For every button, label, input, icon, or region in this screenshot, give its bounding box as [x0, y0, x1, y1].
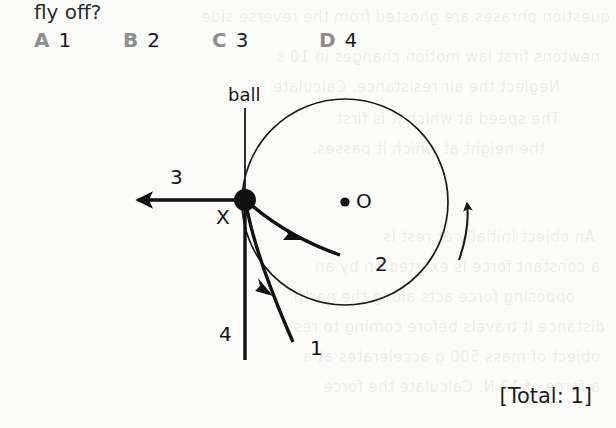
option-c-value: 3: [236, 28, 249, 52]
centre-label: O: [356, 189, 372, 213]
exam-question-page: question phrases are ghosted from the re…: [0, 0, 616, 428]
physics-diagram: ball O X 1 2 3 4: [0, 60, 616, 370]
ghost-text-line: question phrases are ghosted from the re…: [201, 8, 610, 26]
option-b[interactable]: B2: [123, 26, 160, 54]
option-b-letter: B: [123, 28, 138, 52]
centre-point-dot: [340, 197, 349, 206]
direction-label-4: 4: [219, 322, 232, 346]
diagram-svg: [0, 60, 616, 370]
option-a-letter: A: [34, 28, 49, 52]
direction-label-1: 1: [310, 336, 323, 360]
option-c-letter: C: [212, 28, 227, 52]
ball-label: ball: [228, 84, 260, 105]
option-c[interactable]: C3: [212, 26, 248, 54]
ball-dot: [234, 189, 256, 211]
option-a[interactable]: A1: [34, 26, 71, 54]
point-x-label: X: [216, 205, 230, 229]
total-marks: [Total: 1]: [499, 384, 592, 408]
rotation-direction-arrow: [459, 203, 468, 260]
option-d-value: 4: [345, 28, 358, 52]
direction-label-3: 3: [170, 165, 183, 189]
option-b-value: 2: [147, 28, 160, 52]
question-stem: fly off?: [34, 0, 101, 24]
option-a-value: 1: [58, 28, 71, 52]
option-d[interactable]: D4: [319, 26, 357, 54]
arrow-direction-2: [249, 203, 340, 255]
direction-label-2: 2: [375, 252, 388, 276]
option-d-letter: D: [319, 28, 336, 52]
